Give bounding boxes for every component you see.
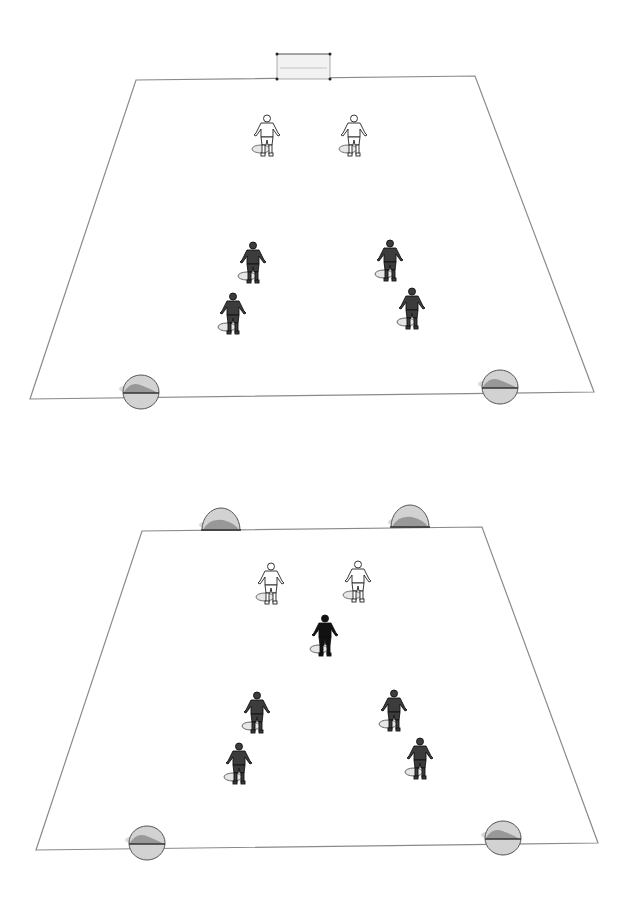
player-dark-icon bbox=[238, 242, 266, 283]
goal-icon bbox=[276, 53, 332, 81]
cone-icon bbox=[125, 826, 165, 860]
player-dark-icon bbox=[379, 690, 407, 731]
player-dark-icon bbox=[405, 738, 433, 779]
cone-icon bbox=[119, 375, 159, 409]
drill-diagram-2 bbox=[36, 505, 598, 860]
cone-icon bbox=[478, 370, 518, 404]
player-dark-icon bbox=[397, 288, 425, 329]
player-white-icon bbox=[256, 563, 284, 604]
cone-icon bbox=[388, 505, 430, 527]
player-dark-icon bbox=[242, 692, 270, 733]
player-white-icon bbox=[343, 561, 371, 602]
player-dark-icon bbox=[218, 293, 246, 334]
cone-icon bbox=[481, 821, 521, 855]
cone-icon bbox=[199, 508, 241, 530]
player-dark-icon bbox=[224, 743, 252, 784]
pitch-boundary bbox=[36, 527, 598, 850]
player-dark-icon bbox=[375, 240, 403, 281]
drill-diagram-1 bbox=[30, 53, 594, 410]
player-white-icon bbox=[252, 115, 280, 156]
player-white-icon bbox=[339, 115, 367, 156]
player-black-icon bbox=[310, 615, 338, 656]
pitch-boundary bbox=[30, 76, 594, 399]
drills-canvas bbox=[0, 0, 631, 904]
